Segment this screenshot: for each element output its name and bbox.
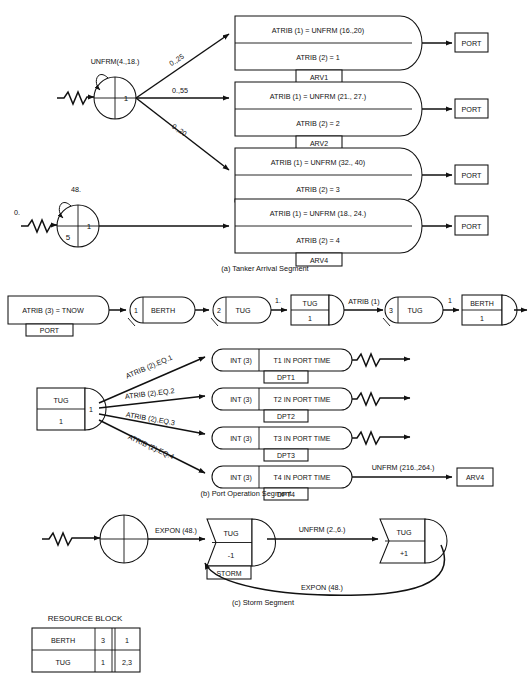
stat1-left: INT (3) xyxy=(230,357,252,365)
stat3-right: T3 IN PORT TIME xyxy=(274,435,331,442)
segb-cond-4: ATRIB (2).EQ.4 xyxy=(127,432,176,461)
segment-b-source-node: TUG 1 1 xyxy=(37,388,106,430)
network-diagram: 1 UNFRM(4.,18.) 0.,25 0.,55 0.,20 1 5 48… xyxy=(0,0,531,681)
free2-value: 1 xyxy=(480,315,484,322)
storm-alter-node: TUG -1 STORM xyxy=(207,519,276,579)
arrival3-line1: ATRIB (1) = UNFRM (32., 40) xyxy=(271,158,365,167)
segment-a-branches: 0.,25 0.,55 0.,20 xyxy=(136,34,229,170)
stat2-left: INT (3) xyxy=(230,396,252,404)
arrival1-line1: ATRIB (1) = UNFRM (16.,20) xyxy=(272,26,364,35)
arrival4-dest: PORT xyxy=(462,222,482,231)
await2-label: TUG xyxy=(235,306,251,315)
arrival2-line2: ATRIB (2) = 2 xyxy=(296,119,340,128)
storm-restore-node: TUG +1 xyxy=(380,519,447,563)
arrival3-line2: ATRIB (2) = 3 xyxy=(296,185,340,194)
chain-link-label-3: 1 xyxy=(448,297,452,304)
stat-node-1: INT (3) T1 IN PORT TIME DPT1 xyxy=(212,349,410,383)
source2-quad-right: 1 xyxy=(87,222,92,231)
stat-node-2: INT (3) T2 IN PORT TIME DPT2 xyxy=(212,388,410,422)
source2-loop-label: 48. xyxy=(71,185,81,194)
stat3-left: INT (3) xyxy=(230,435,252,443)
stat2-tag: DPT2 xyxy=(277,413,295,420)
arrival-node-1: ATRIB (1) = UNFRM (16.,20) ATRIB (2) = 1… xyxy=(235,16,488,83)
await3-label: TUG xyxy=(407,306,423,315)
stat4-out-target: ARV4 xyxy=(466,474,484,481)
caption-b: (b) Port Operation Segment xyxy=(201,489,292,498)
assign-node-tag: PORT xyxy=(40,327,60,334)
await-node-tug-3: 3 TUG xyxy=(383,297,443,326)
figure-canvas: 1 UNFRM(4.,18.) 0.,25 0.,55 0.,20 1 5 48… xyxy=(0,0,531,681)
source-node-1: 1 UNFRM(4.,18.) xyxy=(91,57,140,119)
resource-row-1-capacity: 1 xyxy=(101,658,105,667)
stat2-right: T2 IN PORT TIME xyxy=(274,396,331,403)
arrival1-tag: ARV1 xyxy=(310,74,328,81)
caption-c: (c) Storm Segment xyxy=(232,598,294,607)
free-node-berth-2: BERTH 1 xyxy=(462,295,517,325)
arrival1-dest: PORT xyxy=(462,39,482,48)
arrival1-line2: ATRIB (2) = 1 xyxy=(296,53,340,62)
assign-node-text: ATRIB (3) = TNOW xyxy=(22,306,84,315)
source-node-2: 1 5 48. xyxy=(57,185,99,247)
await2-number: 2 xyxy=(217,307,221,314)
restore-node-value: +1 xyxy=(400,549,408,558)
arrival-node-2: ATRIB (1) = UNFRM (21., 27.) ATRIB (2) =… xyxy=(235,82,488,149)
storm-edge-mid-label: UNFRM (2.,6.) xyxy=(299,525,346,534)
source1-quad-right: 1 xyxy=(124,94,129,103)
storm-node-tag: STORM xyxy=(216,570,241,577)
assign-node-port: ATRIB (3) = TNOW PORT xyxy=(8,296,109,336)
source1-inflow xyxy=(57,92,94,104)
resource-row-0-name: BERTH xyxy=(51,636,75,645)
resource-block-title: RESOURCE BLOCK xyxy=(48,614,123,623)
stat1-right: T1 IN PORT TIME xyxy=(274,357,331,364)
resource-row-1-name: TUG xyxy=(55,658,71,667)
segb-cond-1: ATRIB (2).EQ.1 xyxy=(124,353,173,381)
free1-label: TUG xyxy=(303,300,318,307)
stat1-tag: DPT1 xyxy=(277,374,295,381)
arrival2-dest: PORT xyxy=(462,105,482,114)
await3-number: 3 xyxy=(389,307,393,314)
stat4-right: T4 IN PORT TIME xyxy=(274,474,331,481)
arrival4-line1: ATRIB (1) = UNFRM (18., 24.) xyxy=(270,209,366,218)
storm-node-label: TUG xyxy=(223,529,239,538)
storm-source-node xyxy=(100,515,148,563)
source1-loop-label: UNFRM(4.,18.) xyxy=(91,57,140,66)
caption-a: (a) Tanker Arrival Segment xyxy=(221,264,308,273)
arrival2-tag: ARV2 xyxy=(310,140,328,147)
storm-edge-in-label: EXPON (48.) xyxy=(155,526,197,535)
chain-link-label-1: 1. xyxy=(275,297,281,304)
source2-inflow: 0. xyxy=(14,208,57,232)
segb-source-value: 1 xyxy=(59,417,63,426)
segb-cond-3: ATRIB (2).EQ.3 xyxy=(125,410,176,428)
source2-start-label: 0. xyxy=(14,208,20,217)
free1-value: 1 xyxy=(308,315,312,322)
resource-block: RESOURCE BLOCK BERTH 3 1 TUG 1 2,3 xyxy=(32,614,140,672)
branch-prob-2: 0.,55 xyxy=(172,86,188,95)
free-node-tug-1: TUG 1 xyxy=(291,295,344,325)
arrival3-dest: PORT xyxy=(462,171,482,180)
stat-node-3: INT (3) T3 IN PORT TIME DPT3 xyxy=(212,427,410,461)
stat3-tag: DPT3 xyxy=(277,452,295,459)
await1-label: BERTH xyxy=(151,306,175,315)
chain-link-label-2: ATRIB (1) xyxy=(348,297,379,306)
source2-quad-lower-left: 5 xyxy=(66,233,71,242)
restore-node-label: TUG xyxy=(396,528,412,537)
await-node-berth-1: 1 BERTH xyxy=(128,297,195,326)
resource-row-0-queues: 1 xyxy=(125,636,129,645)
segb-source-num: 1 xyxy=(89,406,93,413)
resource-row-0-capacity: 3 xyxy=(101,636,105,645)
arrival2-line1: ATRIB (1) = UNFRM (21., 27.) xyxy=(270,92,366,101)
await-node-tug-2: 2 TUG xyxy=(211,297,271,326)
stat4-left: INT (3) xyxy=(230,474,252,482)
storm-node-value: -1 xyxy=(228,551,234,560)
stat4-out-label: UNFRM (216.,264.) xyxy=(372,463,435,472)
storm-return-label: EXPON (48.) xyxy=(301,583,343,592)
await1-number: 1 xyxy=(134,307,138,314)
segment-b-branch-edges: ATRIB (2).EQ.1 ATRIB (2).EQ.2 ATRIB (2).… xyxy=(99,353,205,473)
free2-label: BERTH xyxy=(470,300,494,307)
arrival4-line2: ATRIB (2) = 4 xyxy=(296,236,340,245)
segb-source-label: TUG xyxy=(53,396,69,405)
arrival-node-4: ATRIB (1) = UNFRM (18., 24.) ATRIB (2) =… xyxy=(235,199,488,266)
resource-row-1-queues: 2,3 xyxy=(122,658,132,667)
storm-source-inflow xyxy=(42,533,100,545)
arrival4-tag: ARV4 xyxy=(310,257,328,264)
